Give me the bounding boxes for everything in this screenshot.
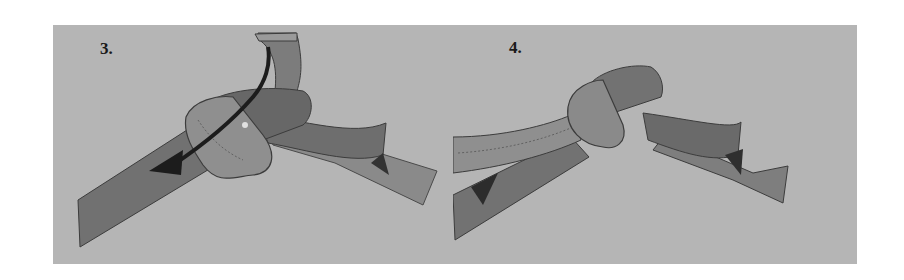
step-3-panel: 3.	[53, 25, 453, 264]
step-4-belt-illustration	[453, 25, 857, 264]
instruction-figure: 3. 4.	[53, 25, 857, 264]
step-3-belt-illustration	[53, 25, 453, 264]
step-number-4: 4.	[509, 38, 522, 58]
step-number-3: 3.	[100, 39, 113, 59]
step-4-panel: 4.	[453, 25, 857, 264]
